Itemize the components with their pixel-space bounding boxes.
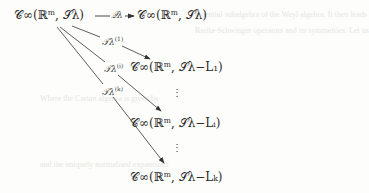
node-target-k: 𝒞∞(ℝᵐ, 𝒮λ−Lₖ) [130,170,222,184]
ellipsis-2: ⋮ [172,145,182,151]
node-target-i: 𝒞∞(ℝᵐ, 𝒮λ−Lᵢ) [130,116,220,130]
arrow-label-ti: 𝒯λ(i) [104,62,123,75]
arrow-label-q: 𝒬λ [111,10,123,21]
ellipsis-1: ⋮ [172,90,182,96]
arrow-label-t1: 𝒯λ(1) [102,35,123,48]
node-target-top: 𝒞∞(ℝᵐ, 𝒮λ) [137,8,207,22]
node-source: 𝒞∞(ℝᵐ, 𝒮λ) [14,8,84,22]
arrow-label-tk: 𝒯λ(k) [102,85,123,98]
node-target-1: 𝒞∞(ℝᵐ, 𝒮λ−L₁) [130,60,223,74]
